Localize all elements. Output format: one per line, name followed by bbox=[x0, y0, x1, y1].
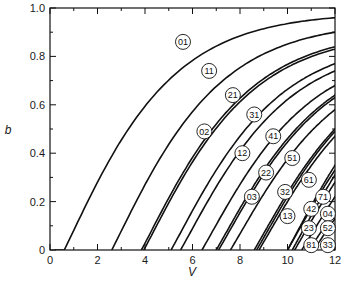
svg-text:33: 33 bbox=[323, 240, 333, 250]
x-tick-label: 8 bbox=[237, 254, 243, 266]
mode-label-01: 01 bbox=[176, 34, 191, 49]
y-axis-title: b bbox=[5, 123, 12, 137]
mode-label-11: 11 bbox=[202, 63, 217, 78]
y-tick-label: 0.6 bbox=[30, 99, 45, 111]
mode-label-13: 13 bbox=[280, 209, 295, 224]
mode-dispersion-chart: 024681012 00.20.40.60.81.0 0111210231124… bbox=[0, 0, 341, 282]
x-tick-label: 0 bbox=[47, 254, 53, 266]
mode-label-61: 61 bbox=[301, 172, 316, 187]
y-tick-label: 1.0 bbox=[30, 2, 45, 14]
x-tick-label: 10 bbox=[281, 254, 293, 266]
mode-label-21: 21 bbox=[225, 88, 240, 103]
svg-text:42: 42 bbox=[306, 204, 316, 214]
mode-label-51: 51 bbox=[285, 151, 300, 166]
x-tick-label: 2 bbox=[94, 254, 100, 266]
svg-text:11: 11 bbox=[204, 66, 213, 76]
svg-text:61: 61 bbox=[304, 175, 314, 185]
x-tick-label: 12 bbox=[329, 254, 341, 266]
svg-text:12: 12 bbox=[237, 148, 247, 158]
svg-text:52: 52 bbox=[323, 223, 333, 233]
y-tick-label: 0.4 bbox=[30, 147, 45, 159]
mode-label-02: 02 bbox=[197, 124, 212, 139]
x-axis-title: V bbox=[188, 265, 197, 279]
y-tick-label: 0 bbox=[39, 244, 45, 256]
svg-text:01: 01 bbox=[178, 37, 188, 47]
mode-label-22: 22 bbox=[259, 165, 274, 180]
mode-label-04: 04 bbox=[320, 206, 335, 221]
x-tick-label: 4 bbox=[142, 254, 148, 266]
svg-text:71: 71 bbox=[318, 192, 328, 202]
mode-label-81: 81 bbox=[304, 238, 319, 253]
mode-label-03: 03 bbox=[244, 189, 259, 204]
svg-text:32: 32 bbox=[280, 187, 290, 197]
svg-text:21: 21 bbox=[228, 90, 238, 100]
svg-text:31: 31 bbox=[249, 110, 259, 120]
mode-label-71: 71 bbox=[316, 189, 331, 204]
mode-label-12: 12 bbox=[235, 146, 250, 161]
mode-label-33: 33 bbox=[320, 238, 335, 253]
y-tick-label: 0.2 bbox=[30, 196, 45, 208]
mode-label-32: 32 bbox=[278, 184, 293, 199]
svg-text:13: 13 bbox=[282, 211, 292, 221]
mode-label-52: 52 bbox=[320, 221, 335, 236]
svg-text:02: 02 bbox=[199, 127, 209, 137]
mode-label-41: 41 bbox=[266, 129, 281, 144]
svg-text:04: 04 bbox=[323, 209, 333, 219]
svg-text:51: 51 bbox=[287, 153, 297, 163]
mode-label-23: 23 bbox=[301, 221, 316, 236]
svg-text:03: 03 bbox=[247, 192, 257, 202]
y-tick-label: 0.8 bbox=[30, 50, 45, 62]
svg-text:22: 22 bbox=[261, 168, 271, 178]
svg-text:23: 23 bbox=[304, 223, 314, 233]
svg-text:41: 41 bbox=[268, 131, 278, 141]
mode-label-42: 42 bbox=[304, 201, 319, 216]
svg-text:81: 81 bbox=[306, 240, 316, 250]
mode-label-31: 31 bbox=[247, 107, 262, 122]
